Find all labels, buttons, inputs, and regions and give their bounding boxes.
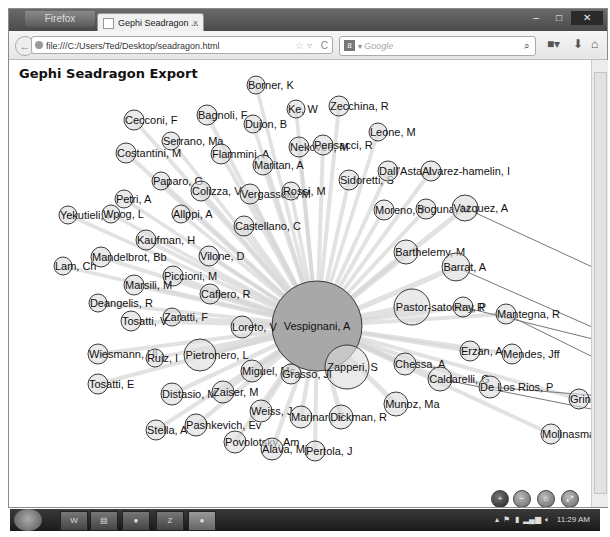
node-label: Molinasmata, I [542,428,591,440]
node-label: Maritan, A [254,159,304,171]
node-label: Wpog, L [103,208,144,220]
windows-taskbar: W ▤ ● Z ● ▴ ⚑ ▮ ▂▄▆ 🔈︎ 11:29 AM [10,509,600,531]
node-label: Pashkevich, Ev [186,419,262,431]
bookmark-star-icon[interactable]: ☆ ▿ [295,37,312,55]
url-bar[interactable]: file:///C:/Users/Ted/Desktop/seadragon.h… [31,36,333,54]
tray-arrow-icon[interactable]: ▴ [495,515,499,524]
search-placeholder: Google [364,41,393,51]
taskbar-chrome[interactable]: ● [122,511,150,531]
browser-tab[interactable]: Gephi Seadragon ... × [97,13,204,32]
taskbar-word[interactable]: W [60,511,88,531]
tab-title: Gephi Seadragon ... [118,18,199,28]
node-label: Tosatti, E [89,378,134,390]
taskbar-explorer[interactable]: ▤ [90,511,118,531]
node-label: Borner, K [248,79,295,91]
node-label: Mantegna, R [497,308,560,320]
fullscreen-button[interactable]: ⤢ [561,490,579,507]
node-label: Zaiser, M [213,386,258,398]
google-icon[interactable]: 8 [344,40,355,51]
node-label: Zecchina, R [330,100,389,112]
signal-icon[interactable]: ▂▄▆ [523,515,541,524]
zoom-out-button[interactable]: − [513,490,531,507]
node-label: Grinstein, G [570,393,591,405]
node-label: Colizza, V [192,185,242,197]
maximize-button[interactable]: □ [549,11,569,25]
node-label: Zapperi, S [327,361,378,373]
node-label: Vespignani, A [284,320,351,332]
node-label: De Los Rios, P [480,381,553,393]
system-tray: ▴ ⚑ ▮ ▂▄▆ 🔈︎ 11:29 AM [495,509,590,531]
navigation-toolbar: ← file:///C:/Users/Ted/Desktop/seadragon… [9,31,607,60]
volume-icon[interactable]: 🔈︎ [545,515,550,524]
minimize-button[interactable]: – [525,11,547,25]
node-label: Castellano, C [235,220,301,232]
scrollbar-thumb[interactable] [594,72,607,494]
home-view-button[interactable]: ⌂ [537,490,555,507]
node-label: Cecconi, F [125,114,178,126]
node-label: Leone, M [370,126,416,138]
node-label: Mandelbrot, Bb [92,251,167,263]
node-label: Dickman, R [330,411,387,423]
clock[interactable]: 11:29 AM [557,515,590,524]
page-title: Gephi Seadragon Export [19,66,198,81]
vertical-scrollbar[interactable] [591,60,608,507]
download-icon[interactable]: ⬇ [573,37,583,51]
node-label: Alvarez-hamelin, I [422,165,510,177]
taskbar-app[interactable]: Z [156,511,184,531]
battery-icon[interactable]: ▮ [515,515,519,524]
node-label: Ray, P [454,301,486,313]
home-icon[interactable]: ⌂ [591,37,598,51]
search-icon[interactable]: ⌕ [524,37,530,55]
bookmarks-icon[interactable]: ■▾ [547,37,560,51]
node-label: Ke, W [288,103,319,115]
node-label: Marsili, M [125,279,172,291]
node-label: Pietronero, L [186,349,249,361]
network-graph[interactable]: Vespignani, ABorner, KKe, WZecchina, RCe… [9,60,591,507]
node-label: Tosatti, V [122,315,168,327]
node-label: Loreto, V [232,321,277,333]
flag-icon[interactable]: ⚑ [503,515,510,524]
node-label: Weiss, J [251,405,292,417]
node-label: Costantini, M [117,147,181,159]
node-label: Distasio, M [162,388,216,400]
close-window-button[interactable]: ✕ [571,11,603,25]
node-label: Ruiz, I [147,352,178,364]
node-label: Petri, A [116,193,152,205]
node-label: Mendes, Jff [503,348,561,360]
node-label: Alava, Mj [262,443,307,455]
node-label: Pensacci, R [314,139,373,151]
browser-window: Firefox Gephi Seadragon ... × – □ ✕ ← fi… [8,8,608,508]
page-icon [103,18,114,29]
reload-icon[interactable]: C [321,37,328,55]
node-label: Zaratti, F [164,311,208,323]
node-label: Vazquez, A [453,202,508,214]
firefox-menu-button[interactable]: Firefox [25,11,95,27]
node-label: Bagnoli, F [198,109,248,121]
node-label: Lam, Ch [55,260,97,272]
node-label: Erzan, A [461,345,503,357]
taskbar-firefox[interactable]: ● [188,511,216,531]
node-label: Deangelis, R [90,297,153,309]
start-button[interactable] [14,509,42,531]
close-tab-icon[interactable]: × [193,14,198,32]
node-label: Serrano, Ma [163,135,224,147]
title-bar: Firefox Gephi Seadragon ... × – □ ✕ [9,9,607,31]
zoom-in-button[interactable]: + [491,490,509,507]
node-label: Stella, A [147,424,188,436]
node-label: Kaufman, H [137,234,195,246]
node-label: Pertola, J [306,445,352,457]
node-label: Allppi, A [173,208,213,220]
node-label: Barrat, A [443,261,486,273]
url-text: file:///C:/Users/Ted/Desktop/seadragon.h… [46,41,220,51]
node-label: Vilone, D [200,250,244,262]
search-box[interactable]: 8▾ Google ⌕ [339,36,536,56]
globe-icon [35,41,43,49]
node-label: Grasso, Jl [282,368,332,380]
node-label: Munoz, Ma [385,398,440,410]
page-content: Vespignani, ABorner, KKe, WZecchina, RCe… [9,60,591,507]
node-label: Dujon, B [245,118,287,130]
node-label: Rossi, M [283,185,326,197]
node-label: Cafiero, R [201,288,251,300]
